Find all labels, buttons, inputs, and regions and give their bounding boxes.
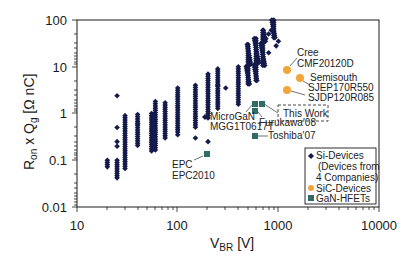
y-tick-100: 100 xyxy=(45,13,67,28)
y-tick-10: 10 xyxy=(53,60,67,75)
gan-point-epc xyxy=(204,151,210,157)
legend: Si-Devices (Devices from 4 Companies) Si… xyxy=(305,148,380,204)
x-tick-10: 10 xyxy=(70,218,84,233)
y-axis-title: Ron x Qg [Ω nC] xyxy=(21,74,39,170)
legend-si-sublabel-2: 4 Companies) xyxy=(316,172,378,183)
sic-point-cree xyxy=(283,66,291,74)
legend-sic-circle-icon xyxy=(308,185,314,191)
annotation-sjdp: SJDP120R085 xyxy=(308,92,375,103)
x-tick-1000: 1000 xyxy=(264,218,293,233)
y-tick-0.1: 0.1 xyxy=(49,153,67,168)
x-axis-ticks xyxy=(77,207,379,212)
annotation-epc-part: EPC2010 xyxy=(172,170,215,181)
x-axis-title: VBR [V] xyxy=(210,235,254,253)
x-tick-100: 100 xyxy=(166,218,188,233)
y-tick-1: 1 xyxy=(60,106,67,121)
sic-point-sjdp xyxy=(283,86,291,94)
y-tick-0.01: 0.01 xyxy=(42,200,67,215)
x-tick-10000: 10000 xyxy=(361,218,397,233)
gan-point-toshiba xyxy=(252,133,258,139)
legend-si-label: Si-Devices xyxy=(316,150,364,161)
annotation-epc: EPC xyxy=(172,159,193,170)
gan-point-microgan xyxy=(252,101,258,107)
annotation-cree: Cree xyxy=(297,47,319,58)
y-axis-ticks xyxy=(72,20,77,207)
annotation-cree-part: CMF20120D xyxy=(297,58,354,69)
sic-point-semisouth xyxy=(296,74,304,82)
legend-gan-square-icon xyxy=(308,195,314,201)
legend-si-sublabel-1: (Devices from xyxy=(318,161,380,172)
legend-gan-label: GaN-HFETs xyxy=(316,193,370,204)
scatter-chart: 10 100 1000 10000 100 10 1 0.1 0.01 VBR … xyxy=(0,0,419,268)
annotation-toshiba: Toshiba'07 xyxy=(268,130,316,141)
annotation-furukawa: Furukawa'08 xyxy=(259,117,316,128)
